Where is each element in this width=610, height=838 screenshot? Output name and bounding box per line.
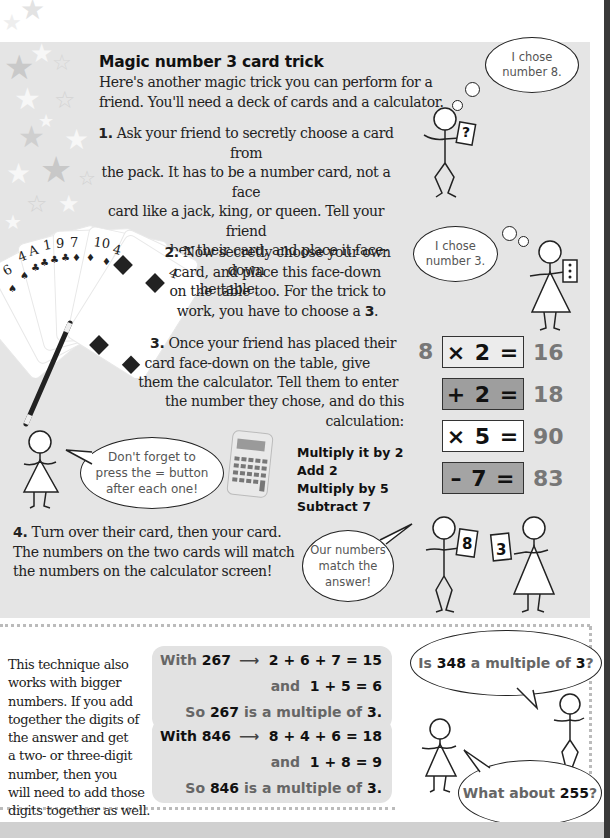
svg-text:♠: ♠ <box>8 283 17 294</box>
bubble-line: answer! <box>310 574 386 590</box>
svg-text:♦: ♦ <box>86 252 95 263</box>
start-number: 8 <box>418 339 433 364</box>
stick-figure-asker <box>548 690 594 772</box>
reveal-card-you: 3 <box>496 541 506 559</box>
calc-row: + 2 = 18 <box>442 378 564 410</box>
step-4: 4. Turn over their card, then your card.… <box>13 523 295 582</box>
star-icon: ☆ <box>52 52 72 74</box>
result-value: 18 <box>533 382 564 407</box>
step-number: 4. <box>13 524 27 540</box>
question-text: Is 348 a multiple of 3? <box>418 655 593 671</box>
step-line: work, you have to choose a 3. <box>160 302 395 322</box>
dotted-divider <box>0 624 590 627</box>
calculation-table: 8 × 2 = 16 + 2 = 18 × 5 = 90 – 7 = 83 <box>418 336 598 511</box>
operation-box: – 7 = <box>442 462 524 494</box>
svg-text:♣: ♣ <box>31 262 40 273</box>
example-box-846: With 846 ⟶ 8 + 4 + 6 = 18 and 1 + 8 = 9 … <box>152 719 392 803</box>
page-edge <box>604 0 610 838</box>
bubble-line: press the = button <box>96 465 209 481</box>
text-line: This technique also <box>8 656 158 674</box>
star-icon: ☆ <box>54 88 76 112</box>
text-line: together the digits of <box>8 711 158 729</box>
operation-box: × 2 = <box>442 336 524 368</box>
result-value: 83 <box>533 466 564 491</box>
svg-text:9: 9 <box>56 236 64 251</box>
text-line: numbers. If you add <box>8 693 158 711</box>
step-3-last-line: the number they chose, and do this calcu… <box>108 392 404 431</box>
reveal-card-friend: 8 <box>462 535 472 553</box>
instruction-item: Multiply by 5 <box>297 480 403 498</box>
speech-tail <box>515 686 545 710</box>
text-line: digits together as well. <box>8 802 158 820</box>
example-line: So 846 is a multiple of 3. <box>185 780 382 796</box>
emphasis-number: 3 <box>365 303 374 319</box>
calculator-icon <box>226 430 274 500</box>
text-line: will need to add those <box>8 784 158 802</box>
bubble-line: number 8. <box>502 65 562 80</box>
instruction-item: Subtract 7 <box>297 498 403 516</box>
intro-line: Here's another magic trick you can perfo… <box>99 73 444 93</box>
star-icon: ★ <box>20 0 45 24</box>
svg-text:♠: ♠ <box>20 270 29 281</box>
star-icon: ★ <box>30 40 53 66</box>
star-icon: ★ <box>2 12 22 34</box>
star-icon: ★ <box>40 152 72 188</box>
result-value: 90 <box>533 424 564 449</box>
text-line: a two- or three-digit <box>8 747 158 765</box>
bottom-bar <box>0 822 604 838</box>
svg-text:♣: ♣ <box>50 254 59 265</box>
step-line: 4. Turn over their card, then your card. <box>13 523 295 543</box>
card-question-mark: ? <box>462 124 470 140</box>
example-box-267: With 267 ⟶ 2 + 6 + 7 = 15 and 1 + 5 = 6 … <box>152 646 392 730</box>
star-icon: ★ <box>18 122 45 152</box>
star-icon: ★ <box>6 160 31 188</box>
calculation-instructions: Multiply it by 2 Add 2 Multiply by 5 Sub… <box>297 444 403 516</box>
example-line: ⟶ 2 + 6 + 7 = 15 <box>239 652 382 668</box>
example-line: So 267 is a multiple of 3. <box>185 704 382 720</box>
step-number: 2. <box>164 244 178 260</box>
step-number: 1. <box>98 125 112 141</box>
stick-figure-reminder <box>18 428 68 510</box>
instruction-item: Add 2 <box>297 462 403 480</box>
step-line: the pack. It has to be a number card, no… <box>96 163 396 202</box>
intro-text: Here's another magic trick you can perfo… <box>99 73 444 112</box>
star-icon: ☆ <box>26 192 48 216</box>
thought-bubble-you: I chosenumber 3. <box>413 226 498 282</box>
operation-box: × 5 = <box>442 420 524 452</box>
step-3: 3. Once your friend has placed their car… <box>100 334 400 393</box>
thought-bubble-friend: I chosenumber 8. <box>485 37 579 93</box>
step-line: 3. Once your friend has placed their <box>100 334 396 354</box>
question-text: What about 255? <box>463 785 597 801</box>
step-line: 1. Ask your friend to secretly choose a … <box>96 124 396 163</box>
example-line: With 267 <box>160 652 231 668</box>
step-line: 2. Now secretly choose your own <box>160 243 395 263</box>
step-line: on the table too. For the trick to <box>160 282 395 302</box>
calc-row: – 7 = 83 <box>442 462 564 494</box>
bubble-line: I chose <box>502 50 562 65</box>
bubble-line: I chose <box>426 239 486 254</box>
step-line: them the calculator. Tell them to enter <box>100 373 398 393</box>
instruction-item: Multiply it by 2 <box>297 444 403 462</box>
stick-figure-friend <box>410 105 490 200</box>
step-line: The numbers on the two cards will match <box>13 543 295 563</box>
thought-dot <box>465 82 480 97</box>
calc-row: × 2 = 16 <box>442 336 564 368</box>
step-number: 3. <box>150 335 164 351</box>
svg-text:♦: ♦ <box>102 256 111 267</box>
thought-dot <box>502 226 517 241</box>
text-line: number, then you <box>8 766 158 784</box>
star-icon: ★ <box>14 84 41 114</box>
step-line: the numbers on the calculator screen! <box>13 562 295 582</box>
svg-text:7: 7 <box>70 235 78 250</box>
example-line: With 846 <box>160 728 231 744</box>
bubble-line: after each one! <box>96 481 209 497</box>
speech-tail <box>64 448 94 468</box>
bigger-numbers-text: This technique also works with bigger nu… <box>8 656 158 821</box>
bubble-line: Our numbers <box>310 542 386 558</box>
calc-row: × 5 = 90 <box>442 420 564 452</box>
example-line: ⟶ 8 + 4 + 6 = 18 <box>239 728 382 744</box>
step-2: 2. Now secretly choose your own card, an… <box>160 243 395 321</box>
stick-figure-you <box>520 238 592 333</box>
bubble-line: Don't forget to <box>96 449 209 465</box>
example-line: and 1 + 8 = 9 <box>271 754 382 770</box>
